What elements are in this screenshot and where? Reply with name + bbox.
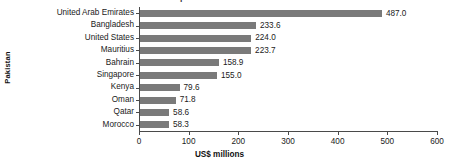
x-axis-tick-mark bbox=[288, 131, 289, 135]
y-axis-tick-label: United States bbox=[85, 32, 134, 44]
x-axis-tick-mark bbox=[139, 131, 140, 135]
bar bbox=[140, 97, 176, 104]
y-axis-tick-label: Qatar bbox=[114, 106, 134, 118]
x-axis-tick-label: 500 bbox=[372, 137, 402, 146]
y-axis-tick-mark bbox=[136, 13, 139, 14]
y-axis-tick-labels: United Arab EmiratesBangladeshUnited Sta… bbox=[16, 7, 134, 131]
y-axis-tick-label: Singapore bbox=[97, 69, 134, 81]
x-axis-tick-label: 100 bbox=[174, 137, 204, 146]
bar bbox=[140, 84, 180, 91]
y-axis-tick-label: Oman bbox=[112, 94, 134, 106]
y-axis-tick-mark bbox=[136, 88, 139, 89]
bar bbox=[140, 59, 219, 66]
y-axis-tick-mark bbox=[136, 63, 139, 64]
y-axis-tick-label: Bahrain bbox=[106, 57, 134, 69]
bar bbox=[140, 35, 251, 42]
y-axis-tick-label: Morocco bbox=[103, 119, 134, 131]
y-axis-tick-label: Bangladesh bbox=[91, 19, 134, 31]
x-axis-tick-label: 0 bbox=[124, 137, 154, 146]
x-axis-tick-mark bbox=[238, 131, 239, 135]
y-axis-tick-mark bbox=[136, 100, 139, 101]
chart-title-text: Pakistan's top investment destinations 2… bbox=[128, 0, 358, 2]
bar-value-label: 158.9 bbox=[223, 58, 244, 67]
y-axis-tick-label: Mauritius bbox=[101, 44, 134, 56]
bar-value-label: 223.7 bbox=[255, 46, 276, 55]
bar bbox=[140, 109, 169, 116]
y-axis-tick-label: United Arab Emirates bbox=[57, 7, 134, 19]
y-axis-tick-mark bbox=[136, 112, 139, 113]
y-axis-tick-mark bbox=[136, 38, 139, 39]
x-axis-title: US$ millions bbox=[0, 150, 439, 159]
bar-value-label: 58.6 bbox=[173, 108, 189, 117]
x-axis-tick-mark bbox=[387, 131, 388, 135]
bar-value-label: 58.3 bbox=[173, 120, 189, 129]
bar-value-label: 224.0 bbox=[255, 33, 276, 42]
bar bbox=[140, 121, 169, 128]
x-axis-tick-label: 200 bbox=[223, 137, 253, 146]
bar bbox=[140, 10, 382, 17]
y-axis-tick-label: Kenya bbox=[111, 81, 134, 93]
x-axis-tick-mark bbox=[189, 131, 190, 135]
y-axis-tick-mark bbox=[136, 26, 139, 27]
bar-value-label: 487.0 bbox=[386, 9, 407, 18]
y-axis-title: Pakistan bbox=[3, 40, 12, 96]
bar bbox=[140, 72, 217, 79]
bar bbox=[140, 47, 251, 54]
bar-value-label: 155.0 bbox=[221, 71, 242, 80]
chart-title-clipped: Pakistan's top investment destinations 2… bbox=[128, 0, 358, 4]
x-axis-tick-label: 600 bbox=[422, 137, 449, 146]
x-axis-tick-mark bbox=[437, 131, 438, 135]
plot-area: 487.0233.6224.0223.7158.9155.079.671.858… bbox=[139, 7, 437, 131]
bar-value-label: 233.6 bbox=[260, 21, 281, 30]
y-axis-tick-mark bbox=[136, 75, 139, 76]
x-axis-tick-mark bbox=[338, 131, 339, 135]
bar-value-label: 79.6 bbox=[184, 83, 200, 92]
x-axis-tick-label: 300 bbox=[273, 137, 303, 146]
y-axis-tick-mark bbox=[136, 125, 139, 126]
bar-value-label: 71.8 bbox=[180, 95, 196, 104]
x-axis-tick-label: 400 bbox=[323, 137, 353, 146]
bar bbox=[140, 22, 256, 29]
y-axis-tick-mark bbox=[136, 50, 139, 51]
